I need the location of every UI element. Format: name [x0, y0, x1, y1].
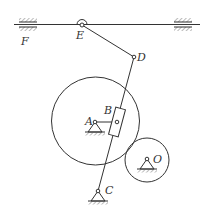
mechanism-diagram: F E D B A — [0, 0, 215, 219]
pivot-A — [93, 120, 97, 124]
label-F: F — [20, 35, 29, 48]
link-ED — [82, 25, 134, 57]
label-D: D — [136, 51, 146, 64]
label-A: A — [84, 115, 93, 128]
pivot-E — [77, 20, 87, 27]
label-B: B — [103, 104, 112, 117]
pivot-O — [145, 157, 149, 161]
pivot-D — [132, 55, 136, 59]
pivot-B — [115, 120, 119, 124]
label-E: E — [75, 29, 84, 42]
pivot-C — [96, 189, 100, 193]
label-O: O — [153, 153, 162, 166]
label-C: C — [105, 184, 114, 197]
